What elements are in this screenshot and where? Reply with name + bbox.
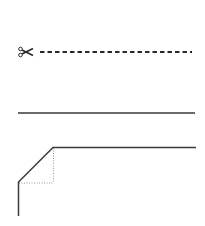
corner-bevel-shape bbox=[19, 148, 197, 217]
diagram-canvas bbox=[0, 0, 205, 226]
scissors-icon bbox=[19, 47, 33, 57]
bevel-guide-lines bbox=[19, 148, 54, 183]
